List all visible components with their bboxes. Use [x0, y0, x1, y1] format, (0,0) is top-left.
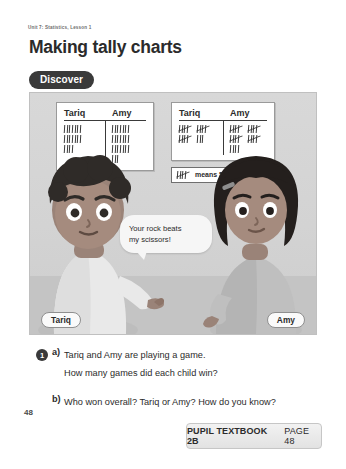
tally-marks	[112, 125, 129, 133]
tally-row	[230, 134, 267, 143]
illustration-panel: Tariq Amy Tariq Amy	[29, 92, 317, 335]
speech-bubble: Your rock beats my scissors!	[120, 215, 212, 253]
five-bar-gate-icon	[179, 124, 193, 133]
character-amy	[200, 144, 308, 334]
tally-row	[230, 124, 267, 133]
question-a-line-2: How many games did each child win?	[64, 365, 326, 383]
tally-row	[179, 124, 218, 133]
tally-marks	[64, 125, 81, 133]
chart-left-col-tariq: Tariq	[64, 108, 105, 118]
tally-row	[64, 124, 100, 133]
speech-line-2: my scissors!	[129, 234, 203, 245]
speech-line-1: Your rock beats	[129, 223, 203, 234]
tally-marks	[197, 135, 203, 143]
textbook-page: Unit 7: Statistics, Lesson 1 Making tall…	[0, 0, 346, 469]
five-bar-gate-icon	[179, 134, 193, 143]
name-tag-amy: Amy	[267, 312, 305, 328]
chart-right-col-amy: Amy	[223, 108, 267, 118]
tally-row	[179, 134, 218, 143]
question-a-line-1: Tariq and Amy are playing a game.	[64, 347, 326, 365]
question-part-a: a) Tariq and Amy are playing a game. How…	[36, 347, 326, 383]
five-bar-gate-icon	[230, 134, 244, 143]
question-part-b: b) Who won overall? Tariq or Amy? How do…	[36, 394, 326, 412]
five-bar-gate-icon	[197, 124, 211, 133]
tally-row	[112, 124, 146, 133]
page-number: 48	[24, 408, 33, 417]
footer-bar: PUPIL TEXTBOOK 2B PAGE 48	[186, 423, 322, 449]
discover-section-badge: Discover	[29, 71, 94, 89]
page-title: Making tally charts	[29, 37, 182, 58]
question-letter-a: a)	[52, 347, 60, 357]
five-bar-gate-icon	[230, 124, 244, 133]
questions-block: 1 a) Tariq and Amy are playing a game. H…	[36, 347, 326, 423]
chart-left-col-amy: Amy	[105, 108, 146, 118]
name-tag-tariq: Tariq	[41, 312, 81, 328]
five-bar-gate-icon	[248, 134, 262, 143]
footer-page-label: PAGE 48	[284, 426, 321, 446]
question-b-line-1: Who won overall? Tariq or Amy? How do yo…	[64, 394, 326, 412]
five-bar-gate-icon	[177, 170, 191, 179]
five-bar-gate-icon	[248, 124, 262, 133]
chart-right-col-tariq: Tariq	[179, 108, 223, 118]
question-letter-b: b)	[52, 394, 61, 404]
footer-book-title: PUPIL TEXTBOOK 2B	[187, 426, 279, 446]
unit-lesson-label: Unit 7: Statistics, Lesson 1	[28, 25, 92, 30]
